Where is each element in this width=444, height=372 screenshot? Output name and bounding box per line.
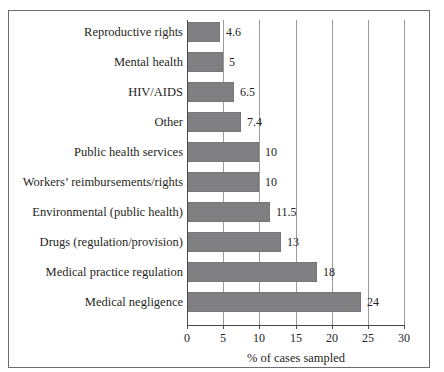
category-axis-labels: Reproductive rightsMental healthHIV/AIDS…: [0, 20, 187, 325]
x-tick-0: [187, 325, 188, 329]
x-tick-20: [332, 325, 333, 329]
chart-figure: Reproductive rightsMental healthHIV/AIDS…: [0, 0, 444, 372]
bar-value-label: 6.5: [240, 82, 255, 102]
bar-value-label: 10: [265, 172, 277, 192]
bar: [187, 112, 241, 132]
bar: [187, 292, 361, 312]
bar-value-label: 5: [229, 52, 235, 72]
x-tick-label-10: 10: [239, 331, 279, 345]
bar-value-label: 24: [367, 292, 379, 312]
bar-value-label: 10: [265, 142, 277, 162]
x-tick-label-30: 30: [384, 331, 424, 345]
category-label: Public health services: [2, 142, 187, 162]
category-label: Workers’ reimbursements/rights: [2, 172, 187, 192]
bar: [187, 172, 259, 192]
category-label: Reproductive rights: [2, 22, 187, 42]
x-tick-10: [259, 325, 260, 329]
bar-value-label: 7.4: [247, 112, 262, 132]
bar-value-label: 11.5: [276, 202, 297, 222]
bar: [187, 232, 281, 252]
x-axis-title: % of cases sampled: [187, 351, 405, 366]
bar: [187, 22, 220, 42]
category-label: Drugs (regulation/provision): [2, 232, 187, 252]
bar-value-label: 18: [323, 262, 335, 282]
x-tick-5: [223, 325, 224, 329]
bar-value-label: 4.6: [226, 22, 241, 42]
x-tick-label-20: 20: [312, 331, 352, 345]
plot-area: 4.656.57.4101011.5131824: [187, 20, 404, 325]
gridline-30: [404, 20, 405, 325]
bar: [187, 142, 259, 162]
bar: [187, 202, 270, 222]
category-label: Medical practice regulation: [2, 262, 187, 282]
bar-value-label: 13: [287, 232, 299, 252]
category-label: Other: [2, 112, 187, 132]
category-label: HIV/AIDS: [2, 82, 187, 102]
gridline-25: [368, 20, 369, 325]
x-tick-30: [404, 325, 405, 329]
category-label: Mental health: [2, 52, 187, 72]
category-label: Environmental (public health): [2, 202, 187, 222]
top-cut-text: [10, 0, 310, 5]
category-label: Medical negligence: [2, 292, 187, 312]
x-tick-label-0: 0: [167, 331, 207, 345]
bar: [187, 262, 317, 282]
bar: [187, 82, 234, 102]
x-tick-label-15: 15: [276, 331, 316, 345]
x-tick-label-25: 25: [348, 331, 388, 345]
x-tick-25: [368, 325, 369, 329]
x-tick-15: [296, 325, 297, 329]
bar: [187, 52, 223, 72]
x-tick-label-5: 5: [203, 331, 243, 345]
y-axis-line: [187, 20, 188, 326]
